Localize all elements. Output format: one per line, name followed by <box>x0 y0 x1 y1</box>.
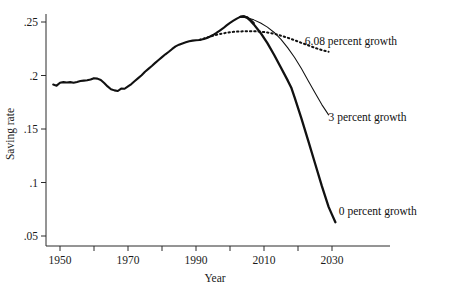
series-line <box>53 16 254 91</box>
zero-growth-label: 0 percent growth <box>339 205 417 218</box>
six-growth-label: 6.08 percent growth <box>305 35 398 48</box>
annotation-layer: 6.08 percent growth3 percent growth0 per… <box>305 35 417 218</box>
x-tick-label: 1990 <box>185 254 208 266</box>
y-tick-label: .1 <box>29 177 38 189</box>
x-axis-title: Year <box>204 272 225 284</box>
x-tick-label: 2030 <box>321 254 344 266</box>
x-tick-label: 1970 <box>117 254 140 266</box>
y-axis-title: Saving rate <box>4 108 17 160</box>
three-growth-label: 3 percent growth <box>329 111 407 124</box>
saving-rate-chart: .05.1.15.2.25 19501970199020102030 6.08 … <box>0 0 462 289</box>
y-tick-label: .2 <box>29 70 38 82</box>
y-axis: .05.1.15.2.25 <box>24 14 46 246</box>
x-tick-label: 2010 <box>253 254 276 266</box>
x-axis: 19501970199020102030 <box>46 246 390 266</box>
y-tick-label: .25 <box>24 16 39 28</box>
chart-canvas: .05.1.15.2.25 19501970199020102030 6.08 … <box>0 0 462 289</box>
series-layer <box>53 16 335 222</box>
x-tick-label: 1950 <box>49 254 72 266</box>
y-tick-label: .15 <box>24 123 39 135</box>
y-tick-label: .05 <box>24 230 39 242</box>
